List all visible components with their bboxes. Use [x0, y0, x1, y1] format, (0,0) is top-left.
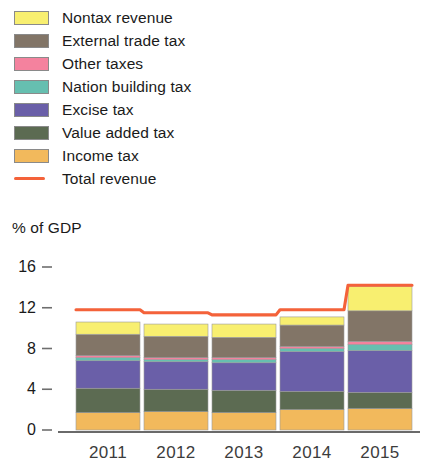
x-axis-label-2015: 2015: [360, 443, 399, 462]
bar-segment: [280, 352, 344, 392]
bar-segment: [76, 358, 140, 361]
bar-2015: [348, 286, 412, 430]
bar-segment: [212, 324, 276, 337]
y-axis-tick-label: 4: [27, 380, 36, 397]
bar-segment: [144, 358, 208, 360]
color-swatch-icon: [14, 80, 49, 94]
color-swatch-icon: [14, 11, 49, 25]
bar-segment: [348, 341, 412, 344]
bar-segment: [348, 344, 412, 350]
legend-item-total-revenue: Total revenue: [0, 167, 423, 190]
y-axis-tick-label: 0: [27, 421, 36, 438]
bar-segment: [348, 392, 412, 408]
bar-segment: [348, 286, 412, 310]
y-axis-ticks: 0481216: [18, 258, 52, 438]
bar-segment: [280, 410, 344, 430]
x-axis-label-2014: 2014: [292, 443, 331, 462]
bar-segment: [76, 361, 140, 389]
total-revenue-line-group: [76, 285, 412, 315]
y-axis-title: % of GDP: [12, 219, 82, 237]
x-axis-label-2013: 2013: [224, 443, 263, 462]
legend-label: Other taxes: [62, 56, 143, 72]
color-swatch-icon: [14, 103, 49, 117]
bar-2012: [144, 324, 208, 430]
legend-item-nontax-revenue: Nontax revenue: [0, 6, 423, 29]
bar-segment: [144, 324, 208, 336]
legend-item-external-trade-tax: External trade tax: [0, 29, 423, 52]
legend-label: Nontax revenue: [62, 10, 173, 26]
legend-label: Value added tax: [62, 125, 174, 141]
bar-segment: [212, 360, 276, 363]
legend-item-excise-tax: Excise tax: [0, 98, 423, 121]
bar-segment: [348, 409, 412, 430]
bar-segment: [144, 389, 208, 411]
bar-segment: [280, 349, 344, 352]
color-swatch-icon: [14, 34, 49, 48]
bar-segment: [76, 388, 140, 412]
legend-label: Nation building tax: [62, 79, 191, 95]
bar-segment: [76, 356, 140, 358]
color-swatch-icon: [14, 57, 49, 71]
chart-legend: Nontax revenue External trade tax Other …: [0, 0, 423, 212]
y-axis-tick-label: 16: [18, 258, 36, 275]
legend-label: Total revenue: [62, 171, 156, 187]
bar-segment: [348, 351, 412, 393]
y-axis-tick-label: 12: [18, 299, 36, 316]
bar-segment: [280, 325, 344, 346]
legend-item-income-tax: Income tax: [0, 144, 423, 167]
legend-label: Income tax: [62, 148, 139, 164]
legend-item-value-added-tax: Value added tax: [0, 121, 423, 144]
bar-2011: [76, 322, 140, 430]
bar-segment: [348, 311, 412, 342]
x-axis-label-2011: 2011: [89, 443, 127, 462]
bar-series-group: [76, 286, 412, 430]
bar-segment: [212, 337, 276, 357]
legend-label: Excise tax: [62, 102, 134, 118]
legend-item-other-taxes: Other taxes: [0, 52, 423, 75]
line-sample-stroke: [14, 177, 45, 180]
bar-segment: [76, 322, 140, 334]
legend-label: External trade tax: [62, 33, 185, 49]
bar-segment: [212, 390, 276, 412]
bar-segment: [144, 412, 208, 430]
bar-segment: [76, 413, 140, 430]
bar-segment: [280, 391, 344, 409]
x-axis-label-2012: 2012: [156, 443, 195, 462]
bar-segment: [212, 358, 276, 360]
x-axis-category-labels: 20112012201320142015: [89, 443, 400, 462]
bar-segment: [144, 362, 208, 390]
bar-segment: [212, 363, 276, 391]
bar-segment: [280, 317, 344, 325]
bar-segment: [280, 346, 344, 348]
legend-item-nation-building-tax: Nation building tax: [0, 75, 423, 98]
bar-segment: [144, 336, 208, 357]
bar-segment: [144, 360, 208, 362]
total-revenue-line: [76, 285, 412, 315]
y-axis-tick-label: 8: [27, 340, 36, 357]
line-sample-icon: [14, 172, 49, 186]
color-swatch-icon: [14, 149, 49, 163]
bar-2014: [280, 317, 344, 430]
bar-segment: [76, 334, 140, 355]
bar-segment: [212, 413, 276, 430]
color-swatch-icon: [14, 126, 49, 140]
bar-2013: [212, 324, 276, 430]
